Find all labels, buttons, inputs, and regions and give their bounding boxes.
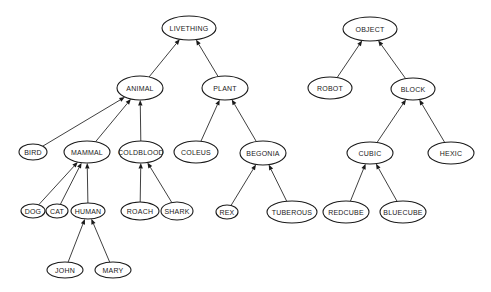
nodes-layer: LIVETHINGANIMALPLANTBIRDMAMMALCOLDBLOODC… bbox=[19, 16, 474, 278]
arrowhead-icon bbox=[196, 40, 201, 46]
edge-line bbox=[422, 104, 445, 142]
edge-line bbox=[39, 166, 74, 205]
node-roach: ROACH bbox=[121, 202, 159, 220]
node-label: MAMMAL bbox=[71, 149, 103, 156]
edge-line bbox=[231, 169, 253, 205]
arrowhead-icon bbox=[419, 100, 424, 106]
node-rex: REX bbox=[216, 205, 238, 219]
node-label: PLANT bbox=[213, 85, 237, 92]
node-bird: BIRD bbox=[19, 144, 47, 160]
edge-rex-to-begonia bbox=[231, 164, 256, 205]
edge-line bbox=[87, 169, 88, 204]
node-label: HUMAN bbox=[75, 208, 102, 215]
edge-roach-to-coldblood bbox=[139, 163, 143, 202]
node-cat: CAT bbox=[46, 204, 68, 218]
node-robot: ROBOT bbox=[308, 77, 352, 99]
arrowhead-icon bbox=[139, 163, 143, 169]
node-mammal: MAMMAL bbox=[64, 141, 110, 163]
edge-coleus-to-plant bbox=[201, 100, 220, 142]
node-label: LIVETHING bbox=[170, 25, 209, 32]
arrowhead-icon bbox=[269, 165, 273, 171]
node-human: HUMAN bbox=[71, 203, 105, 219]
edge-line bbox=[96, 103, 128, 142]
node-label: REX bbox=[220, 209, 235, 216]
node-cubic: CUBIC bbox=[347, 142, 393, 164]
edge-bluecube-to-cubic bbox=[376, 164, 397, 202]
arrowhead-icon bbox=[401, 99, 406, 105]
edge-tuberous-to-begonia bbox=[269, 165, 287, 202]
edge-john-to-human bbox=[68, 219, 85, 262]
node-label: CAT bbox=[50, 208, 65, 215]
node-label: BIRD bbox=[24, 149, 42, 156]
edge-dog-to-mammal bbox=[39, 162, 78, 205]
edge-line bbox=[337, 45, 359, 78]
arrowhead-icon bbox=[251, 164, 256, 170]
edge-line bbox=[379, 168, 398, 201]
edge-hexic-to-block bbox=[419, 100, 444, 143]
edge-line bbox=[150, 167, 172, 202]
edge-line bbox=[140, 169, 141, 203]
node-label: OBJECT bbox=[356, 26, 385, 33]
edge-line bbox=[199, 44, 218, 76]
node-label: ANIMAL bbox=[126, 85, 153, 92]
node-redcube: REDCUBE bbox=[323, 201, 369, 223]
edge-robot-to-object bbox=[337, 41, 362, 78]
arrowhead-icon bbox=[147, 163, 152, 169]
node-object: OBJECT bbox=[343, 17, 397, 41]
edge-line bbox=[94, 224, 110, 262]
edge-line bbox=[60, 168, 79, 205]
arrowhead-icon bbox=[77, 163, 82, 169]
edge-line bbox=[149, 44, 176, 78]
node-label: ROACH bbox=[127, 208, 153, 215]
edge-human-to-mammal bbox=[85, 163, 89, 203]
node-label: HEXIC bbox=[440, 150, 462, 157]
node-label: BLUECUBE bbox=[383, 209, 422, 216]
edge-begonia-to-plant bbox=[232, 100, 257, 142]
node-dog: DOG bbox=[21, 204, 45, 218]
node-coldblood: COLDBLOOD bbox=[118, 141, 164, 163]
arrowhead-icon bbox=[376, 164, 381, 170]
node-label: MARY bbox=[103, 267, 124, 274]
arrowhead-icon bbox=[357, 41, 362, 47]
node-label: BLOCK bbox=[401, 86, 426, 93]
node-label: COLDBLOOD bbox=[118, 149, 164, 156]
edge-line bbox=[68, 224, 83, 262]
node-block: BLOCK bbox=[391, 78, 435, 100]
arrowhead-icon bbox=[138, 100, 142, 106]
node-begonia: BEGONIA bbox=[240, 141, 286, 165]
edge-animal-to-livething bbox=[149, 39, 180, 77]
edge-line bbox=[271, 170, 287, 202]
edge-mammal-to-animal bbox=[96, 99, 131, 142]
edge-line bbox=[235, 104, 257, 141]
edge-coldblood-to-animal bbox=[138, 100, 142, 141]
arrowhead-icon bbox=[232, 100, 237, 106]
node-label: TUBEROUS bbox=[272, 209, 313, 216]
edge-mary-to-human bbox=[91, 219, 109, 262]
node-mary: MARY bbox=[95, 262, 131, 278]
node-plant: PLANT bbox=[202, 76, 248, 100]
hierarchy-diagram: LIVETHINGANIMALPLANTBIRDMAMMALCOLDBLOODC… bbox=[0, 0, 491, 292]
edge-shark-to-coldblood bbox=[147, 163, 171, 203]
node-bluecube: BLUECUBE bbox=[380, 201, 426, 223]
edge-redcube-to-cubic bbox=[350, 164, 365, 201]
node-label: ROBOT bbox=[317, 85, 343, 92]
node-hexic: HEXIC bbox=[428, 142, 474, 164]
edge-line bbox=[350, 169, 363, 201]
node-coleus: COLEUS bbox=[174, 141, 218, 163]
node-john: JOHN bbox=[47, 262, 83, 278]
edge-line bbox=[140, 106, 141, 142]
node-label: COLEUS bbox=[181, 149, 211, 156]
edge-line bbox=[381, 45, 405, 79]
node-shark: SHARK bbox=[161, 202, 193, 220]
arrowhead-icon bbox=[215, 100, 219, 106]
node-label: SHARK bbox=[164, 208, 189, 215]
node-animal: ANIMAL bbox=[117, 76, 163, 100]
node-label: JOHN bbox=[55, 267, 75, 274]
arrowhead-icon bbox=[378, 40, 383, 46]
arrowhead-icon bbox=[81, 219, 85, 225]
edge-line bbox=[201, 105, 218, 142]
arrowhead-icon bbox=[362, 164, 366, 170]
node-label: CUBIC bbox=[359, 150, 382, 157]
arrowhead-icon bbox=[119, 97, 125, 102]
node-label: REDCUBE bbox=[328, 209, 364, 216]
